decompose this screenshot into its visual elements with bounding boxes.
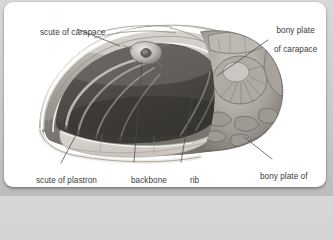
- label-scute-of-plastron: scute of plastron: [22, 166, 97, 187]
- label-text-line1: bony plate: [276, 26, 314, 35]
- label-text-line2: of carapace: [274, 45, 317, 54]
- label-bony-plate-of-carapace: bony plate of carapace: [260, 16, 317, 64]
- label-text-line1: bony plate of: [260, 172, 308, 181]
- screenshot-stage: scute of carapace bony plate of carapace…: [0, 0, 333, 196]
- label-bony-plate-of-plastron: bony plate of plastron: [246, 162, 308, 187]
- label-text: rib: [190, 176, 199, 185]
- label-text: scute of plastron: [36, 176, 97, 185]
- label-backbone: backbone: [117, 166, 167, 187]
- label-text: scute of carapace: [40, 28, 105, 37]
- label-text: backbone: [131, 176, 167, 185]
- central-scute: [213, 56, 267, 104]
- label-rib: rib: [176, 166, 199, 187]
- leader-bony-plate-of-plastron: [244, 137, 272, 159]
- figure-card: scute of carapace bony plate of carapace…: [4, 2, 326, 187]
- upper-scute: [208, 33, 264, 54]
- label-scute-of-carapace: scute of carapace: [26, 18, 105, 47]
